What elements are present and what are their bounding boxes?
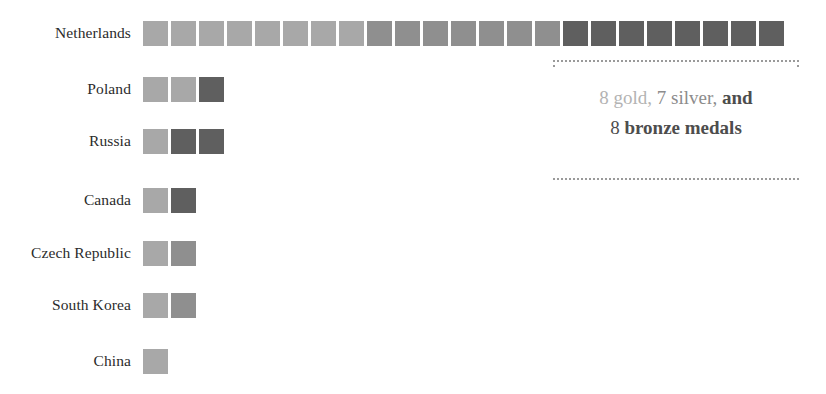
unit-square-silver — [423, 21, 448, 46]
annotation-silver-text: 7 silver, — [657, 87, 717, 108]
chart-row: South Korea — [0, 292, 196, 318]
row-label-netherlands: Netherlands — [0, 24, 143, 42]
annotation-underline — [553, 178, 799, 180]
unit-square-bronze — [703, 21, 728, 46]
chart-row: Czech Republic — [0, 240, 196, 266]
unit-square-gold — [171, 21, 196, 46]
row-label-china: China — [0, 352, 143, 370]
unit-square-bronze — [171, 188, 196, 213]
annotation-and-text: and — [722, 87, 753, 108]
unit-square-gold — [143, 188, 168, 213]
unit-group — [143, 349, 168, 374]
unit-chart: NetherlandsPolandRussiaCanadaCzech Repub… — [0, 0, 826, 394]
unit-square-silver — [171, 293, 196, 318]
chart-row: Canada — [0, 187, 196, 213]
annotation-medals-text: medals — [685, 117, 742, 138]
unit-square-silver — [507, 21, 532, 46]
unit-group — [143, 129, 224, 154]
row-label-canada: Canada — [0, 191, 143, 209]
unit-square-gold — [143, 293, 168, 318]
annotation-callout: 8 gold, 7 silver, and 8 bronze medals — [546, 83, 806, 143]
unit-group — [143, 77, 224, 102]
unit-square-gold — [255, 21, 280, 46]
unit-square-gold — [143, 129, 168, 154]
unit-square-bronze — [647, 21, 672, 46]
chart-row: China — [0, 348, 168, 374]
bronze-range-bracket — [553, 60, 799, 67]
annotation-bronze-text: bronze — [624, 117, 680, 138]
unit-group — [143, 21, 784, 46]
chart-row: Russia — [0, 128, 224, 154]
unit-square-gold — [227, 21, 252, 46]
unit-square-bronze — [591, 21, 616, 46]
annotation-gold-text: 8 gold, — [599, 87, 652, 108]
unit-square-bronze — [731, 21, 756, 46]
unit-square-gold — [339, 21, 364, 46]
unit-group — [143, 293, 196, 318]
unit-square-silver — [479, 21, 504, 46]
unit-square-bronze — [675, 21, 700, 46]
row-label-czech-republic: Czech Republic — [0, 244, 143, 262]
unit-square-bronze — [199, 77, 224, 102]
row-label-russia: Russia — [0, 132, 143, 150]
unit-square-gold — [143, 21, 168, 46]
unit-square-gold — [199, 21, 224, 46]
unit-square-silver — [367, 21, 392, 46]
unit-square-bronze — [171, 129, 196, 154]
unit-square-silver — [535, 21, 560, 46]
row-label-south-korea: South Korea — [0, 296, 143, 314]
unit-square-silver — [395, 21, 420, 46]
unit-square-gold — [171, 77, 196, 102]
annotation-line-1: 8 gold, 7 silver, and — [546, 83, 806, 113]
unit-square-gold — [311, 21, 336, 46]
unit-square-bronze — [199, 129, 224, 154]
unit-group — [143, 241, 196, 266]
unit-square-bronze — [619, 21, 644, 46]
chart-row: Netherlands — [0, 20, 784, 46]
unit-group — [143, 188, 196, 213]
unit-square-gold — [283, 21, 308, 46]
unit-square-gold — [143, 241, 168, 266]
unit-square-silver — [451, 21, 476, 46]
row-label-poland: Poland — [0, 80, 143, 98]
unit-square-bronze — [563, 21, 588, 46]
annotation-bronze-count: 8 — [610, 117, 620, 138]
unit-square-gold — [143, 349, 168, 374]
annotation-line-2: 8 bronze medals — [546, 113, 806, 143]
unit-square-gold — [143, 77, 168, 102]
unit-square-bronze — [759, 21, 784, 46]
unit-square-silver — [171, 241, 196, 266]
chart-row: Poland — [0, 76, 224, 102]
